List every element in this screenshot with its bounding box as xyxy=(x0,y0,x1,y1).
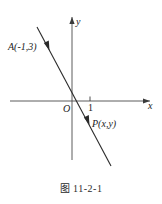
x-axis xyxy=(10,98,150,103)
x-tick-label-one: 1 xyxy=(88,103,93,113)
point-label-p: P(x,y) xyxy=(92,119,116,129)
coordinate-plot xyxy=(0,0,162,178)
origin-label: O xyxy=(63,104,70,114)
point-label-a: A(-1,3) xyxy=(8,42,37,52)
y-axis-label: y xyxy=(76,17,80,27)
y-axis-arrow-icon xyxy=(69,17,74,24)
figure-container: A(-1,3) P(x,y) O 1 x y 图 11-2-1 xyxy=(0,0,162,204)
x-axis-label: x xyxy=(148,101,152,111)
figure-caption: 图 11-2-1 xyxy=(0,180,162,195)
